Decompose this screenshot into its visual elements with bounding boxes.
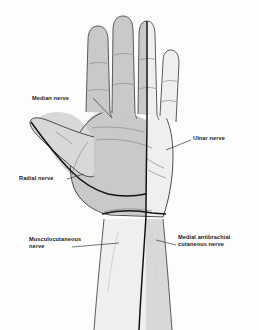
hand-diagram [0,0,259,330]
label-ulnar-nerve: Ulnar nerve [193,135,225,142]
finger-middle [112,16,135,114]
label-medial-antibrachial-line-1: Medial antibrachial [178,234,230,241]
finger-index [86,26,110,113]
finger-little [160,50,179,122]
label-medial-antibrachial-cutaneous-nerve: Medial antibrachial cutaneous nerve [178,234,230,248]
nerve-distribution-figure: Median nerve Ulnar nerve Radial nerve Mu… [0,0,259,330]
label-radial-nerve: Radial nerve [19,175,53,182]
label-medial-antibrachial-line-2: cutaneous nerve [178,241,230,248]
forearm-radial-region [94,219,146,330]
label-musculocutaneous-line-1: Musculocutaneous [29,236,81,243]
label-median-nerve: Median nerve [32,95,69,102]
label-musculocutaneous-nerve: Musculocutaneous nerve [29,236,81,250]
label-musculocutaneous-line-2: nerve [29,243,81,250]
